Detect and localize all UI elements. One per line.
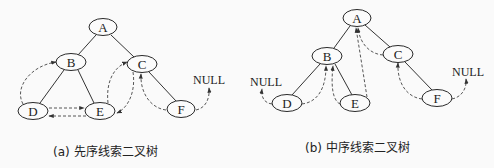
edge-a-c <box>111 35 134 57</box>
edge-a-b <box>334 26 350 48</box>
node-c: C <box>127 56 157 73</box>
null-label: NULL <box>193 73 225 87</box>
inorder-threaded-tree: A B C D E F NULL NULL <box>250 10 484 112</box>
node-label: A <box>98 20 108 35</box>
thread-d-to-b <box>302 66 326 104</box>
node-label: F <box>177 102 184 117</box>
node-label: B <box>323 49 332 64</box>
thread-f-to-null <box>196 88 209 110</box>
node-e: E <box>85 103 115 120</box>
thread-c-to-a <box>358 28 383 55</box>
thread-d-to-b <box>20 62 56 104</box>
node-label: D <box>28 104 37 119</box>
node-a: A <box>89 19 117 36</box>
node-label: D <box>282 96 291 111</box>
edge-b-e <box>78 70 94 103</box>
node-label: E <box>351 96 359 111</box>
node-b: B <box>312 48 342 65</box>
thread-f-to-null <box>452 79 466 99</box>
node-c: C <box>383 46 413 63</box>
node-label: F <box>433 91 440 106</box>
edge-a-b <box>78 35 96 55</box>
caption-preorder: (a) 先序线索二叉树 <box>53 142 158 159</box>
node-f: F <box>167 101 195 118</box>
thread-c-to-e <box>117 72 134 113</box>
node-b: B <box>56 54 86 71</box>
node-label: C <box>394 47 403 62</box>
node-e: E <box>340 95 370 112</box>
node-d: D <box>18 103 48 120</box>
preorder-threaded-tree: A B C D E F NULL <box>18 19 225 120</box>
thread-e-to-c <box>108 62 127 103</box>
edge-c-f <box>149 72 176 101</box>
node-label: A <box>352 11 362 26</box>
node-label: C <box>138 57 147 72</box>
null-label-right: NULL <box>452 65 484 79</box>
null-label-left: NULL <box>250 75 282 89</box>
edge-b-d <box>40 70 64 103</box>
node-d: D <box>272 95 302 112</box>
thread-e-to-a <box>356 28 367 97</box>
edge-c-f <box>405 62 432 90</box>
thread-f-to-c <box>398 63 422 99</box>
edge-a-c <box>365 25 390 47</box>
edge-b-e <box>335 64 352 95</box>
node-label: E <box>96 104 104 119</box>
thread-f-to-c <box>141 74 166 110</box>
node-f: F <box>422 90 452 107</box>
caption-inorder: (b) 中序线索二叉树 <box>305 138 410 155</box>
thread-d-to-null <box>262 89 272 104</box>
node-a: A <box>343 10 371 27</box>
node-label: B <box>67 55 76 70</box>
tree-edges <box>292 25 432 95</box>
edge-b-d <box>292 64 320 95</box>
